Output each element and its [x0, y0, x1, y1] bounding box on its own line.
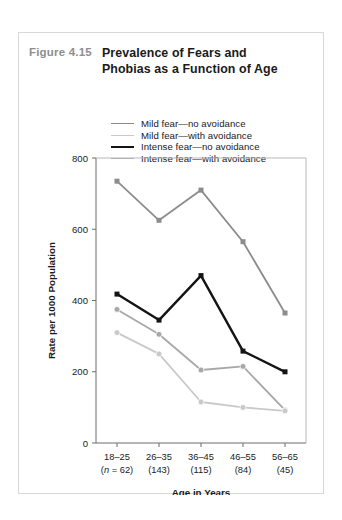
x-category-label: 46–55 [230, 452, 256, 462]
data-point-marker [156, 351, 162, 357]
x-category-label: 26–35 [146, 452, 172, 462]
x-category-sublabel: (115) [190, 465, 211, 475]
data-point-marker [198, 399, 204, 405]
x-category-label: 36–45 [188, 452, 214, 462]
x-category-sublabel: (143) [148, 465, 170, 475]
x-category-sublabel: (45) [277, 465, 294, 475]
data-point-marker [283, 369, 288, 374]
y-axis-title: Rate per 1000 Population [46, 242, 57, 359]
data-point-marker [157, 318, 162, 323]
x-axis-title: Age in Years [172, 487, 231, 495]
data-point-marker [198, 367, 204, 373]
data-point-marker [199, 273, 204, 278]
data-point-marker [241, 349, 246, 354]
x-category-label: 18–25 [104, 452, 130, 462]
series-group [114, 179, 288, 414]
figure-card: Figure 4.15 Prevalence of Fears and Phob… [18, 32, 324, 494]
data-point-marker [240, 364, 246, 370]
data-point-marker [115, 292, 120, 297]
data-point-marker [157, 218, 162, 223]
data-point-marker [283, 311, 288, 316]
y-tick-label: 800 [72, 153, 88, 164]
y-tick-label: 200 [72, 366, 88, 377]
axes-group: 0200400600800 [72, 153, 306, 449]
plot-area: 0200400600800 18–25(n = 62)26–35(143)36–… [19, 33, 325, 495]
x-category-sublabel: (84) [235, 465, 252, 475]
series-line [117, 181, 285, 313]
line-chart-svg: 0200400600800 18–25(n = 62)26–35(143)36–… [19, 33, 325, 495]
y-tick-label: 600 [72, 224, 88, 235]
data-point-marker [199, 188, 204, 193]
x-category-label: 56–65 [272, 452, 298, 462]
data-point-marker [114, 330, 120, 336]
data-point-marker [114, 307, 120, 313]
data-point-marker [240, 405, 246, 411]
data-point-marker [241, 239, 246, 244]
data-point-marker [156, 331, 162, 337]
data-point-marker [282, 408, 288, 414]
y-tick-label: 400 [72, 295, 88, 306]
data-point-marker [115, 179, 120, 184]
x-category-sublabel: (n = 62) [101, 465, 133, 475]
y-tick-label: 0 [83, 438, 88, 449]
